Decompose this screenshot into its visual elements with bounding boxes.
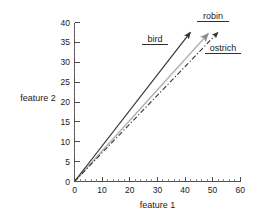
series-label-ostrich: ostrich [210, 43, 237, 53]
y-tick-label: 15 [61, 117, 71, 127]
x-tick-label: 40 [180, 185, 190, 195]
y-tick-label: 10 [61, 137, 71, 147]
y-tick-label: 30 [61, 57, 71, 67]
y-major-ticks [75, 23, 80, 182]
x-tick-label: 50 [208, 185, 218, 195]
series-label-bird: bird [147, 34, 162, 44]
x-tick-label: 30 [153, 185, 163, 195]
y-tick-label: 5 [65, 157, 70, 167]
vector-plot: 0 10 20 30 40 50 60 0 5 10 15 20 25 30 3… [0, 0, 257, 219]
series-label-robin-group: robin [197, 11, 229, 22]
x-tick-label: 20 [125, 185, 135, 195]
y-tick-label: 25 [61, 77, 71, 87]
x-tick-label: 10 [97, 185, 107, 195]
series-group [75, 32, 219, 181]
series-line-bird [75, 32, 191, 181]
series-label-robin: robin [203, 11, 223, 21]
y-tick-label: 0 [65, 177, 70, 187]
x-axis-title: feature 1 [140, 200, 176, 210]
x-tick-label: 0 [72, 185, 77, 195]
series-label-bird-group: bird [142, 34, 168, 45]
y-tick-label: 35 [61, 37, 71, 47]
x-tick-labels: 0 10 20 30 40 50 60 [72, 185, 245, 195]
x-tick-label: 60 [236, 185, 246, 195]
x-major-ticks [75, 177, 241, 182]
series-label-ostrich-group: ostrich [205, 43, 241, 54]
y-axis-title: feature 2 [20, 93, 56, 103]
chart-figure: 0 10 20 30 40 50 60 0 5 10 15 20 25 30 3… [0, 0, 257, 219]
y-tick-label: 40 [61, 18, 71, 28]
series-line-robin [75, 33, 209, 181]
y-tick-label: 20 [61, 97, 71, 107]
y-tick-labels: 0 5 10 15 20 25 30 35 40 [61, 18, 71, 187]
series-line-ostrich [75, 32, 219, 181]
